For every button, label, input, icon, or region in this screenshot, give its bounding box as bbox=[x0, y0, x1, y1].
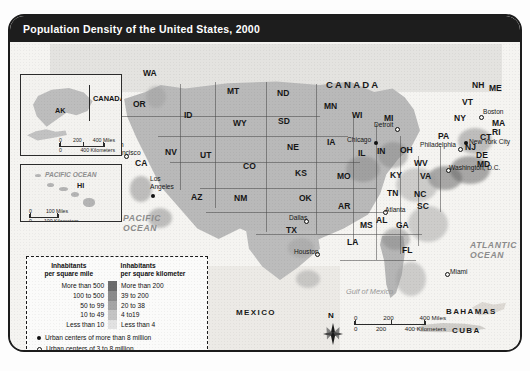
state-label-ri: RI bbox=[492, 128, 501, 137]
map-legend[interactable]: Inhabitants per square mile Inhabitants … bbox=[26, 256, 208, 352]
legend-class-km: 20 to 38 bbox=[121, 301, 201, 311]
country-label-bahamas: BAHAMAS bbox=[446, 308, 497, 316]
state-label-ny: NY bbox=[454, 114, 466, 123]
legend-class-miles: More than 500 bbox=[33, 281, 104, 291]
state-label-ut: UT bbox=[200, 151, 211, 160]
city-label-houston: Houston bbox=[294, 249, 319, 256]
compass-rose: N bbox=[318, 312, 348, 350]
state-label-ok: OK bbox=[299, 194, 312, 203]
legend-header-miles: Inhabitants per square mile bbox=[33, 262, 105, 278]
map-frame: CANADA MEXICO BAHAMAS CUBA JAMAICA PACIF… bbox=[8, 14, 522, 352]
state-boundary bbox=[440, 146, 441, 212]
legend-class-km: 4 to19 bbox=[121, 310, 201, 320]
water-label-gulf-of-mexico: Gulf of Mexico bbox=[346, 288, 393, 295]
city-label-boston: Boston bbox=[483, 109, 504, 116]
inset-hawaii[interactable]: PACIFIC OCEAN HI 0 100 Miles 0 100 Kilom… bbox=[20, 164, 122, 222]
scale-label: 100 Kilometers bbox=[44, 218, 79, 222]
state-label-sd: SD bbox=[278, 117, 290, 126]
inset-alaska-state-label: AK bbox=[55, 107, 65, 114]
legend-km-column: More than 20039 to 20020 to 384 to19Less… bbox=[121, 281, 201, 329]
state-label-al: AL bbox=[376, 216, 387, 225]
legend-color-swatch bbox=[108, 301, 117, 311]
state-label-nd: ND bbox=[277, 89, 289, 98]
state-boundary bbox=[340, 260, 416, 261]
state-label-ne: NE bbox=[287, 143, 299, 152]
state-label-mt: MT bbox=[227, 87, 239, 96]
legend-color-swatch bbox=[108, 310, 117, 320]
legend-swatch-column bbox=[108, 281, 117, 329]
scale-bar-rule bbox=[59, 143, 105, 147]
state-boundary bbox=[266, 82, 267, 232]
scale-bar-hawaii: 0 100 Miles 0 100 Kilometers bbox=[29, 208, 81, 222]
state-label-ks: KS bbox=[295, 169, 307, 178]
state-label-co: CO bbox=[243, 162, 256, 171]
compass-star-icon bbox=[323, 323, 343, 345]
legend-header-miles-line2: per square mile bbox=[33, 270, 105, 278]
city-dot bbox=[374, 141, 378, 145]
city-label-los-angeles: LosAngeles bbox=[150, 176, 174, 190]
scale-bar-rule bbox=[29, 214, 59, 218]
state-label-il: IL bbox=[358, 149, 366, 158]
city-dot bbox=[479, 115, 484, 120]
scale-label: 0 bbox=[354, 325, 357, 332]
inset-hawaii-ocean-label: PACIFIC OCEAN bbox=[45, 172, 97, 179]
state-label-wy: WY bbox=[233, 119, 247, 128]
city-label-chicago: Chicago bbox=[347, 137, 371, 144]
state-label-fl: FL bbox=[402, 246, 412, 255]
legend-urban-large-label: Urban centers of more than 8 million bbox=[45, 333, 151, 343]
legend-header: Inhabitants per square mile Inhabitants … bbox=[33, 262, 201, 278]
legend-urban-section: Urban centers of more than 8 million Urb… bbox=[33, 333, 201, 352]
state-label-az: AZ bbox=[191, 193, 202, 202]
state-label-nh: NH bbox=[472, 81, 484, 90]
hawaii-island bbox=[59, 187, 68, 191]
ocean-label-atlantic: ATLANTIC OCEAN bbox=[470, 241, 517, 261]
hawaii-island bbox=[35, 174, 41, 177]
ocean-label-pacific: PACIFIC OCEAN bbox=[123, 214, 161, 234]
state-label-oh: OH bbox=[400, 146, 413, 155]
legend-urban-small-label: Urban centers of 3 to 8 million bbox=[46, 344, 134, 352]
state-label-wv: WV bbox=[414, 159, 428, 168]
page-title: Population Density of the United States,… bbox=[10, 23, 260, 35]
state-boundary bbox=[158, 136, 348, 137]
scale-label: 0 bbox=[59, 147, 62, 153]
scale-label: 0 bbox=[29, 218, 32, 222]
scale-label: 400 Kilometers bbox=[405, 325, 446, 332]
country-label-mexico: MEXICO bbox=[236, 309, 276, 317]
legend-class-miles: 50 to 99 bbox=[33, 301, 104, 311]
state-label-la: LA bbox=[347, 238, 358, 247]
density-blob bbox=[146, 86, 166, 108]
state-boundary bbox=[180, 84, 181, 190]
alaska-canada-border bbox=[89, 85, 90, 121]
state-label-nm: NM bbox=[234, 194, 247, 203]
state-boundary bbox=[215, 82, 216, 208]
state-boundary bbox=[170, 162, 360, 163]
city-dot bbox=[464, 141, 468, 145]
country-label-canada: CANADA bbox=[326, 80, 380, 90]
state-label-nc: NC bbox=[414, 190, 426, 199]
legend-miles-column: More than 500100 to 50050 to 9910 to 49L… bbox=[33, 281, 104, 329]
country-label-cuba: CUBA bbox=[452, 327, 481, 335]
state-label-sc: SC bbox=[417, 202, 429, 211]
urban-small-dot-icon bbox=[37, 347, 42, 352]
legend-color-swatch bbox=[108, 291, 117, 301]
city-label-line: Los bbox=[150, 176, 174, 183]
state-label-vt: VT bbox=[462, 98, 473, 107]
legend-header-km-line1: Inhabitants bbox=[121, 262, 201, 270]
hawaii-island bbox=[71, 192, 79, 197]
legend-header-km: Inhabitants per square kilometer bbox=[121, 262, 201, 278]
density-blob bbox=[296, 270, 320, 288]
inset-alaska-country-label: CANADA bbox=[93, 95, 122, 102]
density-blob bbox=[408, 206, 448, 242]
city-label-line: Angeles bbox=[150, 184, 174, 191]
legend-classes: More than 500100 to 50050 to 9910 to 49L… bbox=[33, 281, 201, 329]
state-label-wa: WA bbox=[143, 69, 157, 78]
scale-bar-rule bbox=[354, 321, 426, 325]
density-blob bbox=[130, 176, 152, 202]
state-label-wi: WI bbox=[352, 111, 362, 120]
state-boundary bbox=[206, 212, 386, 213]
city-label-atlanta: Atlanta bbox=[385, 207, 406, 214]
state-label-ar: AR bbox=[338, 202, 350, 211]
legend-header-km-line2: per square kilometer bbox=[121, 270, 201, 278]
state-label-ky: KY bbox=[390, 171, 402, 180]
inset-alaska[interactable]: AK CANADA 0 200 400 Miles 0 400 Kilomete… bbox=[20, 74, 122, 156]
